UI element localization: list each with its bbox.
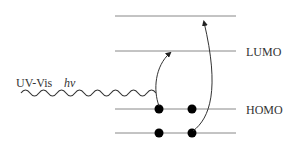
electron-homo-2 (188, 105, 197, 114)
photon-wave-icon (21, 90, 156, 96)
uv-vis-label: UV-Vis (16, 76, 53, 90)
electron-bottom-1 (155, 129, 164, 138)
photon-energy-label: hν (64, 76, 76, 90)
lumo-label: LUMO (246, 45, 282, 59)
homo-label: HOMO (246, 103, 283, 117)
transition-arrow-bottom-to-top (193, 22, 212, 131)
transition-arrow-homo-to-lumo (156, 53, 170, 106)
energy-level-diagram: LUMO HOMO UV-Vis hν (0, 0, 294, 145)
